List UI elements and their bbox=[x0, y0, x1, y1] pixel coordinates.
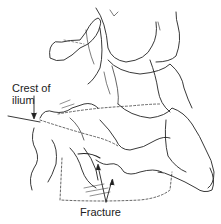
upper-vertebra-outline bbox=[96, 8, 157, 62]
crest-arrow-head bbox=[32, 113, 37, 119]
fracture-arrow-head-2 bbox=[110, 179, 114, 185]
fracture-arrow-line-1 bbox=[98, 166, 106, 202]
fracture-label: Fracture bbox=[80, 206, 121, 218]
middle-vertebra-outline bbox=[108, 60, 192, 108]
fracture-hatching bbox=[84, 184, 110, 196]
fracture-arrow-head-1 bbox=[96, 164, 101, 170]
crest-of-ilium-label: Crest of ilium bbox=[12, 82, 51, 106]
spine-diagram: Crest of ilium Fracture bbox=[0, 0, 221, 224]
crest-label-line2: ilium bbox=[12, 94, 51, 106]
spine-line-drawing bbox=[0, 0, 221, 224]
transverse-process bbox=[50, 18, 101, 61]
crest-label-line1: Crest of bbox=[12, 82, 51, 94]
